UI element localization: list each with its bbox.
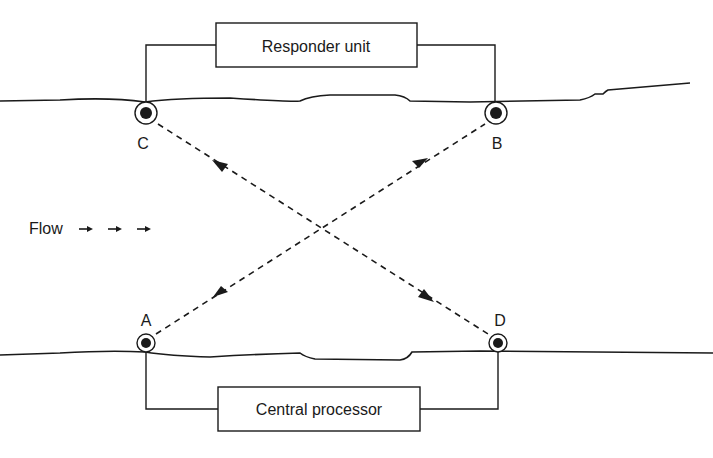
responder-unit-label: Responder unit (262, 38, 371, 55)
node-label-a: A (141, 312, 152, 329)
path-c-to-d (158, 124, 488, 334)
flow-arrows (79, 226, 151, 232)
top-pipe-wall (0, 83, 690, 102)
transducer-b (485, 102, 507, 124)
path-a-to-b (156, 124, 485, 334)
node-label-c: C (137, 135, 149, 152)
arrowhead-toward-a (213, 286, 228, 297)
processor-wire-left (146, 352, 218, 409)
responder-wire-left (146, 45, 216, 101)
arrowhead-toward-c (212, 160, 228, 172)
transducer-a (137, 334, 155, 352)
flow-meter-diagram: Responder unit Central processor C B A D… (0, 0, 713, 458)
processor-wire-right (420, 352, 498, 409)
responder-wire-right (417, 45, 495, 101)
arrowhead-toward-b (412, 158, 428, 168)
central-processor-label: Central processor (256, 401, 383, 418)
transducer-d (489, 334, 507, 352)
node-label-d: D (494, 312, 506, 329)
node-label-b: B (492, 135, 503, 152)
flow-label: Flow (29, 220, 63, 237)
transducer-c (135, 102, 157, 124)
bottom-pipe-wall (0, 351, 713, 360)
